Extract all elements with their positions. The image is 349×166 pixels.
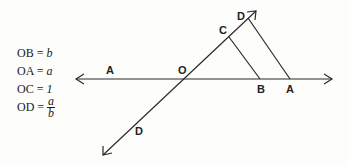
label-b: B	[257, 83, 265, 95]
label-c: C	[219, 24, 227, 36]
equation-od: OD =ab	[17, 96, 55, 119]
equation-oa: OA = a	[17, 64, 52, 79]
label-a-right: A	[286, 83, 294, 95]
segment-CB	[229, 37, 260, 79]
segment-DA	[248, 18, 290, 79]
label-o: O	[178, 64, 187, 76]
label-d-top: D	[237, 10, 245, 22]
label-d-bottom: D	[135, 125, 143, 137]
label-a-left: A	[106, 64, 114, 76]
equation-ob: OB = b	[17, 46, 52, 61]
oblique-line	[103, 11, 256, 155]
equation-oc: OC = 1	[17, 82, 52, 97]
diagram: OB = b OA = a OC = 1 OD =ab A O B A C D …	[0, 0, 349, 166]
